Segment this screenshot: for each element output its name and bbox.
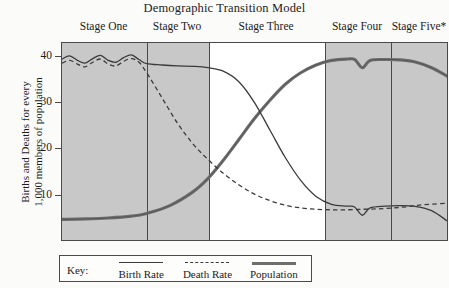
legend-entry-population[interactable]: Population [241,258,307,281]
legend-entry-death-rate[interactable]: Death Rate [174,258,240,281]
legend-swatch-icon [185,262,229,263]
y-tick-label-30: 30 [41,96,53,108]
demographic-transition-chart: Demographic Transition Model Stage OneSt… [0,0,449,288]
y-tick-label-20: 20 [41,143,53,155]
curve-layer [62,43,447,240]
stage-label-row: Stage OneStage TwoStage ThreeStage FourS… [0,20,449,38]
y-axis-title-line-1: Births and Deaths for every [19,47,32,237]
legend-label: Birth Rate [108,268,174,280]
legend-entry-birth-rate[interactable]: Birth Rate [108,258,174,281]
stage-label-4: Stage Four [324,20,390,32]
legend-swatch-icon [252,262,296,265]
population-curve [62,59,447,220]
birth-rate-curve [62,55,447,221]
y-axis: Births and Deaths for every 1,000 member… [0,42,61,241]
y-tick-label-10: 10 [41,189,53,201]
legend: Key: Birth RateDeath RatePopulation [59,255,312,282]
legend-label: Population [241,268,307,280]
stage-label-3: Stage Three [208,20,324,32]
plot-area [61,42,448,241]
death-rate-curve [62,59,447,210]
y-tick-label-40: 40 [41,50,53,62]
legend-swatch-icon [119,262,163,263]
stage-label-2: Stage Two [146,20,208,32]
legend-key-label: Key: [67,264,88,276]
stage-label-1: Stage One [61,20,146,32]
stage-label-5: Stage Five* [390,20,448,32]
page-title: Demographic Transition Model [0,1,449,16]
population-curve-outline [62,59,447,220]
legend-label: Death Rate [174,268,240,280]
